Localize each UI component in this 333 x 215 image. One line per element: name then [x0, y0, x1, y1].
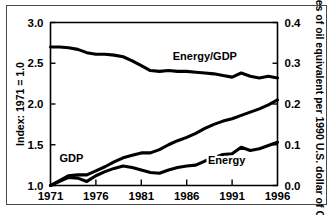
y-axis-tick-label: 3.0 [28, 17, 44, 29]
chart-canvas: 1.01.52.02.53.00.00.10.20.30.41971197619… [0, 0, 333, 215]
chart-figure: 1.01.52.02.53.00.00.10.20.30.41971197619… [0, 0, 333, 215]
x-axis-tick-label: 1986 [174, 190, 200, 202]
y-axis-tick-label: 1.5 [28, 139, 45, 151]
series-label-energy-gdp: Energy/GDP [173, 50, 237, 62]
y-axis-title: Index: 1971 = 1.0 [14, 62, 26, 146]
x-axis-tick-label: 1996 [265, 190, 291, 202]
y2-axis-tick-label: 0.1 [285, 139, 302, 151]
y2-axis-tick-label: 0.3 [285, 57, 301, 69]
y2-axis-tick-label: 0.2 [285, 98, 301, 110]
series-line-energy-gdp [51, 47, 278, 78]
series-label-gdp: GDP [59, 152, 83, 164]
y2-axis-tick-label: 0.4 [285, 17, 302, 29]
y-axis-tick-label: 2.0 [28, 98, 44, 110]
y2-axis-title: Tonnes of oil equivalent per 1990 U.S. d… [314, 0, 326, 215]
x-axis-tick-label: 1971 [38, 190, 64, 202]
x-axis-tick-label: 1991 [219, 190, 245, 202]
series-label-energy: Energy [208, 154, 246, 166]
x-axis-tick-label: 1981 [129, 190, 155, 202]
y-axis-tick-label: 2.5 [28, 57, 45, 69]
x-axis-tick-label: 1976 [83, 190, 109, 202]
